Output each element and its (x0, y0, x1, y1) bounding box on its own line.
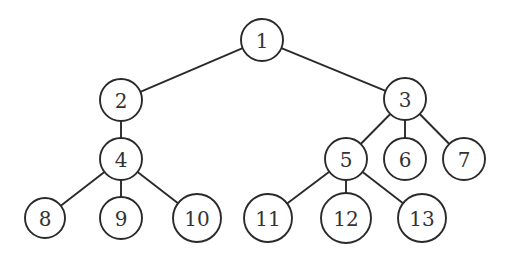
tree-node-9: 9 (100, 197, 142, 239)
tree-node-12: 12 (321, 193, 371, 243)
tree-node-4: 4 (100, 138, 142, 180)
tree-node-6: 6 (384, 138, 426, 180)
node-label: 3 (399, 88, 412, 112)
tree-node-11: 11 (244, 194, 292, 242)
node-label: 5 (340, 148, 353, 172)
node-label: 13 (409, 207, 434, 231)
edge-1-3 (281, 48, 385, 91)
node-label: 6 (399, 148, 412, 172)
edge-4-8 (61, 172, 105, 206)
edge-4-10 (138, 172, 178, 203)
tree-diagram: 12345678910111213 (0, 0, 514, 265)
tree-node-13: 13 (398, 194, 446, 242)
node-label: 2 (115, 89, 128, 113)
node-layer: 12345678910111213 (25, 19, 485, 243)
node-label: 7 (458, 148, 471, 172)
node-label: 9 (115, 207, 128, 231)
tree-node-5: 5 (325, 138, 367, 180)
tree-node-2: 2 (100, 79, 142, 121)
edge-1-2 (140, 48, 242, 92)
node-label: 1 (256, 29, 269, 53)
edge-3-5 (361, 114, 391, 144)
node-label: 12 (333, 207, 358, 231)
node-label: 8 (39, 207, 52, 231)
node-label: 10 (184, 207, 209, 231)
edge-3-7 (420, 114, 450, 144)
edge-layer (61, 48, 449, 206)
tree-node-7: 7 (443, 138, 485, 180)
tree-node-1: 1 (241, 19, 283, 61)
node-label: 4 (115, 148, 128, 172)
tree-node-8: 8 (25, 198, 65, 238)
tree-node-3: 3 (384, 78, 426, 120)
node-label: 11 (255, 207, 280, 231)
edge-5-11 (287, 172, 329, 204)
tree-node-10: 10 (173, 194, 221, 242)
